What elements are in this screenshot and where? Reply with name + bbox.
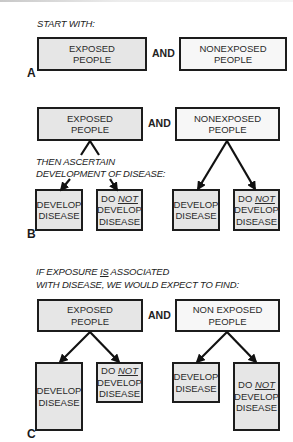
panel-a-and-label: AND — [152, 47, 175, 59]
box-label: PEOPLE — [208, 124, 246, 136]
box-label: EXPOSED — [67, 304, 113, 316]
box-label: DISEASE — [99, 388, 140, 400]
box-label: DISEASE — [175, 210, 216, 222]
arrow-stub-icon — [81, 141, 99, 155]
panel-b-exposed-box: EXPOSED PEOPLE — [37, 107, 143, 141]
box-label: DO NOT — [238, 379, 275, 391]
box-label: DO NOT — [101, 193, 138, 205]
panel-c-heading-line1: IF EXPOSURE IS ASSOCIATED — [36, 266, 169, 278]
box-label: DEVELOP — [37, 385, 82, 397]
panel-c-nonexposed-arrows — [197, 332, 256, 362]
box-label: NON EXPOSED — [193, 304, 263, 316]
box-label: DISEASE — [38, 397, 79, 409]
panel-b-and-label: AND — [148, 117, 171, 129]
box-label: DISEASE — [175, 383, 216, 395]
box-label: DISEASE — [236, 402, 277, 414]
box-label: PEOPLE — [71, 124, 109, 136]
is-emphasis: IS — [100, 266, 109, 277]
panel-c-heading-line2: WITH DISEASE, WE WOULD EXPECT TO FIND: — [36, 279, 239, 291]
panel-b-exposed-not-develop-box: DO NOT DEVELOP DISEASE — [96, 189, 143, 231]
panel-c-nonexposed-not-develop-box: DO NOT DEVELOP DISEASE — [233, 362, 280, 431]
box-label: DEVELOP — [234, 204, 279, 216]
panel-a-heading: START WITH: — [37, 18, 95, 30]
box-label: DEVELOP — [234, 391, 279, 403]
panel-c-nonexposed-develop-box: DEVELOP DISEASE — [172, 362, 220, 403]
arrow-down-right-icon — [227, 332, 256, 362]
box-label: DO NOT — [238, 193, 275, 205]
box-label: NONEXPOSED — [194, 113, 261, 125]
panel-a-label: A — [27, 66, 36, 80]
panel-b-instruction-line2: DEVELOPMENT OF DISEASE: — [36, 168, 165, 180]
box-label: DEVELOP — [97, 204, 142, 216]
panel-b-nonexposed-develop-box: DEVELOP DISEASE — [172, 189, 220, 231]
arrow-down-left-icon — [60, 332, 90, 362]
panel-a-exposed-box: EXPOSED PEOPLE — [37, 37, 147, 71]
panel-c-label: C — [27, 427, 36, 441]
panel-b-nonexposed-box: NONEXPOSED PEOPLE — [175, 107, 280, 141]
box-label: PEOPLE — [73, 54, 111, 66]
panel-c-exposed-box: EXPOSED PEOPLE — [37, 299, 143, 332]
arrow-down-right-icon — [90, 332, 119, 362]
box-label: DEVELOP — [174, 199, 219, 211]
box-label: PEOPLE — [208, 316, 246, 328]
box-label: DO NOT — [101, 365, 138, 377]
box-label: PEOPLE — [214, 54, 252, 66]
arrow-down-left-icon — [197, 332, 227, 362]
panel-c-exposed-arrows — [60, 332, 119, 362]
box-label: DEVELOP — [174, 371, 219, 383]
box-label: EXPOSED — [69, 43, 115, 55]
top-border-line — [0, 0, 293, 2]
not-emphasis: NOT — [118, 193, 138, 204]
not-emphasis: NOT — [118, 365, 138, 376]
arrow-down-left-icon — [198, 141, 227, 189]
box-label: PEOPLE — [71, 316, 109, 328]
not-emphasis: NOT — [255, 379, 275, 390]
box-label: DEVELOP — [37, 199, 82, 211]
box-label: DISEASE — [38, 210, 79, 222]
panel-b-exposed-develop-box: DEVELOP DISEASE — [35, 189, 83, 231]
not-emphasis: NOT — [255, 193, 275, 204]
panel-c-and-label: AND — [148, 309, 171, 321]
panel-b-instruction-line1: THEN ASCERTAIN — [36, 156, 115, 168]
panel-c-nonexposed-box: NON EXPOSED PEOPLE — [175, 299, 280, 332]
panel-a-nonexposed-box: NONEXPOSED PEOPLE — [179, 37, 287, 71]
panel-c-exposed-not-develop-box: DO NOT DEVELOP DISEASE — [96, 362, 143, 403]
box-label: NONEXPOSED — [199, 43, 266, 55]
box-label: DISEASE — [236, 216, 277, 228]
panel-b-nonexposed-arrows — [198, 141, 255, 189]
panel-b-nonexposed-not-develop-box: DO NOT DEVELOP DISEASE — [233, 189, 280, 231]
arrow-down-right-icon — [227, 141, 255, 189]
panel-b-label: B — [27, 227, 36, 241]
box-label: DEVELOP — [97, 377, 142, 389]
box-label: DISEASE — [99, 216, 140, 228]
box-label: EXPOSED — [67, 113, 113, 125]
panel-c-exposed-develop-box: DEVELOP DISEASE — [35, 362, 83, 431]
